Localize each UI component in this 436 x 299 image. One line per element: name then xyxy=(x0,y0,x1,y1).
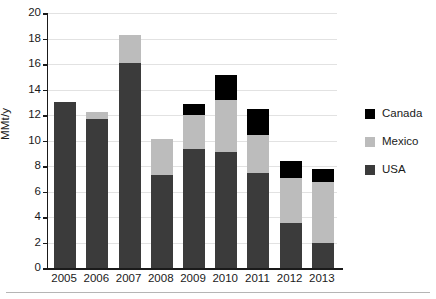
y-axis-tick xyxy=(43,141,48,143)
y-axis-tick-label: 16 xyxy=(28,58,41,70)
bar-segment-mexico-2006[interactable] xyxy=(86,112,108,119)
bar-segment-usa-2007[interactable] xyxy=(119,63,141,268)
legend-label: Canada xyxy=(382,108,422,120)
y-axis-tick-label: 8 xyxy=(35,160,41,172)
y-axis-tick xyxy=(43,90,48,92)
y-axis-tick xyxy=(43,166,48,168)
bar-segment-canada-2010[interactable] xyxy=(215,75,237,99)
y-axis-tick-label: 20 xyxy=(28,7,41,19)
bar-segment-usa-2009[interactable] xyxy=(183,149,205,268)
legend-label: USA xyxy=(382,164,406,176)
bar-segment-mexico-2013[interactable] xyxy=(312,182,334,243)
legend-item-canada[interactable]: Canada xyxy=(365,100,435,128)
bar-segment-usa-2010[interactable] xyxy=(215,152,237,268)
y-axis-tick xyxy=(43,13,48,15)
y-axis-tick-label: 12 xyxy=(28,109,41,121)
bar-segment-mexico-2010[interactable] xyxy=(215,100,237,152)
y-axis-tick xyxy=(43,39,48,41)
legend-swatch-icon xyxy=(365,109,375,119)
gridline xyxy=(48,13,337,14)
plot-area: 02468101214161820 xyxy=(47,13,337,268)
y-axis-tick-label: 6 xyxy=(35,186,41,198)
bar-segment-canada-2011[interactable] xyxy=(247,109,269,136)
y-axis-tick-label: 10 xyxy=(28,135,41,147)
bar-segment-usa-2013[interactable] xyxy=(312,243,334,269)
y-axis-tick xyxy=(43,64,48,66)
legend-item-usa[interactable]: USA xyxy=(365,156,435,184)
bar-segment-usa-2012[interactable] xyxy=(280,223,302,268)
legend-swatch-icon xyxy=(365,137,375,147)
bar-segment-canada-2009[interactable] xyxy=(183,104,205,115)
bar-segment-mexico-2008[interactable] xyxy=(151,139,173,175)
x-axis-label-2013: 2013 xyxy=(300,273,344,285)
legend-swatch-icon xyxy=(365,165,375,175)
gridline xyxy=(48,64,337,65)
bar-segment-usa-2006[interactable] xyxy=(86,119,108,268)
gridline xyxy=(48,90,337,91)
y-axis-title: MMt/y xyxy=(0,108,11,140)
y-axis-tick xyxy=(43,217,48,219)
gridline xyxy=(48,39,337,40)
y-axis-tick xyxy=(43,115,48,117)
bar-segment-usa-2008[interactable] xyxy=(151,175,173,268)
y-axis-tick-label: 0 xyxy=(35,262,41,274)
bottom-divider xyxy=(6,292,430,293)
chart-figure: 02468101214161820 MMt/y 2005200620072008… xyxy=(0,0,436,299)
chart-legend: CanadaMexicoUSA xyxy=(365,100,435,184)
bar-segment-mexico-2007[interactable] xyxy=(119,35,141,63)
y-axis-tick xyxy=(43,192,48,194)
bar-segment-mexico-2011[interactable] xyxy=(247,135,269,173)
y-axis-tick-label: 2 xyxy=(35,237,41,249)
x-axis-line xyxy=(47,268,343,270)
y-axis-tick-label: 4 xyxy=(35,211,41,223)
bar-segment-usa-2005[interactable] xyxy=(54,102,76,268)
y-axis-tick xyxy=(43,243,48,245)
legend-item-mexico[interactable]: Mexico xyxy=(365,128,435,156)
y-axis-tick-label: 14 xyxy=(28,84,41,96)
y-axis-tick-label: 18 xyxy=(28,33,41,45)
bar-segment-mexico-2009[interactable] xyxy=(183,115,205,149)
bar-segment-mexico-2012[interactable] xyxy=(280,178,302,223)
bar-segment-canada-2012[interactable] xyxy=(280,161,302,178)
bar-segment-canada-2013[interactable] xyxy=(312,169,334,182)
bar-segment-usa-2011[interactable] xyxy=(247,173,269,268)
legend-label: Mexico xyxy=(382,136,418,148)
